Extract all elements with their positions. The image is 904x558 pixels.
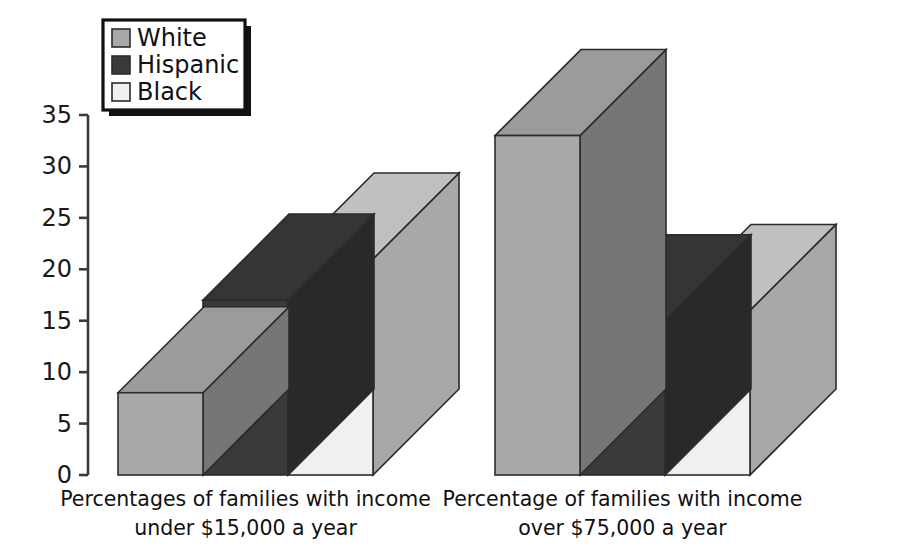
legend-swatch-hispanic [112,56,130,74]
legend-swatch-white [112,29,130,47]
chart-legend: WhiteHispanicBlack [103,20,251,116]
category-labels: Percentages of families with incomeunder… [60,487,802,540]
y-axis: 35302520151050 [41,101,88,489]
category-label-line: over $75,000 a year [518,516,727,540]
y-axis-tick-label: 5 [57,410,72,438]
category-label-line: under $15,000 a year [134,516,357,540]
legend-label-white: White [137,24,207,52]
y-axis-tick-label: 30 [41,152,72,180]
category-label-line: Percentage of families with income [443,487,803,511]
legend-label-black: Black [137,78,202,106]
category-label-line: Percentages of families with income [60,487,431,511]
y-axis-tick-label: 35 [41,101,72,129]
bar-chart-3d: 35302520151050 Percentages of families w… [0,0,904,558]
legend-label-hispanic: Hispanic [137,51,239,79]
y-axis-tick-label: 10 [41,358,72,386]
y-axis-tick-label: 20 [41,255,72,283]
legend-swatch-black [112,83,130,101]
bar-white-group2 [495,50,666,475]
y-axis-tick-label: 0 [57,461,72,489]
chart-container: 35302520151050 Percentages of families w… [0,0,904,558]
y-axis-tick-label: 15 [41,307,72,335]
y-axis-tick-label: 25 [41,204,72,232]
